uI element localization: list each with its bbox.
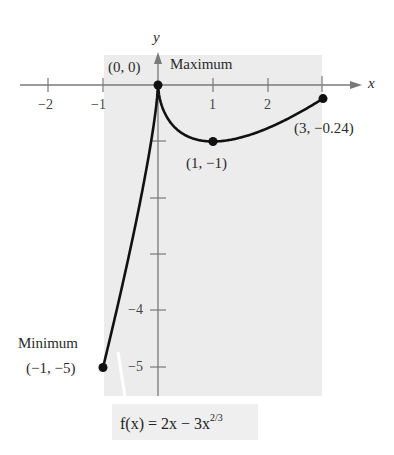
data-point [154, 81, 163, 90]
point-1-label: (1, −1) [186, 156, 227, 171]
data-point [209, 137, 218, 146]
function-formula: f(x) = 2x − 3x2/3 [120, 414, 223, 433]
data-point [99, 363, 108, 372]
y-tick-label-neg5: −5 [128, 360, 143, 374]
minimum-label: Minimum [18, 336, 78, 351]
y-axis-label: y [153, 30, 160, 45]
point-3-label: (3, −0.24) [294, 121, 354, 136]
x-tick-label-1: 1 [209, 98, 216, 112]
formula-exponent: 2/3 [210, 412, 223, 423]
data-point [319, 94, 328, 103]
origin-point-label: (0, 0) [108, 60, 141, 75]
x-axis-arrow-icon [350, 81, 362, 89]
y-tick-label-neg4: −4 [128, 303, 143, 317]
x-tick-label-2: 2 [264, 98, 271, 112]
min-point-label: (−1, −5) [26, 361, 75, 376]
maximum-label: Maximum [170, 57, 233, 72]
formula-prefix: f(x) = 2x − 3x [120, 415, 210, 432]
x-axis-label: x [368, 76, 375, 91]
x-tick-label-neg1: −1 [91, 98, 106, 112]
x-tick-label-neg2: −2 [38, 98, 53, 112]
